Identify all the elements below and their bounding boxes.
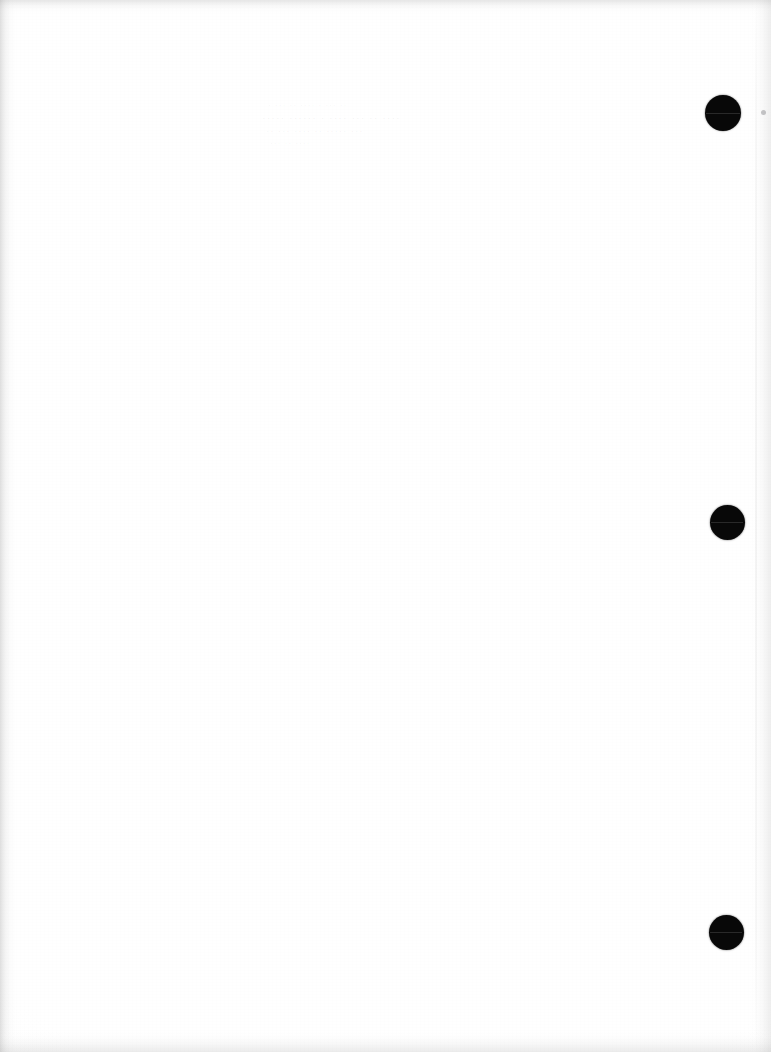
binding-hole-bottom [709,915,744,950]
paper-surface [0,0,771,1052]
binding-hole-top [705,95,741,131]
binding-hole-middle [710,505,745,540]
scan-shadow-top [0,0,771,14]
scan-shadow-bottom [0,1030,771,1052]
scanned-document-page: · ··· ·· ···· · ··· ······· ······ · ···… [0,0,771,1052]
scan-shadow-left [0,0,16,1052]
scan-shadow-right [749,0,771,1052]
